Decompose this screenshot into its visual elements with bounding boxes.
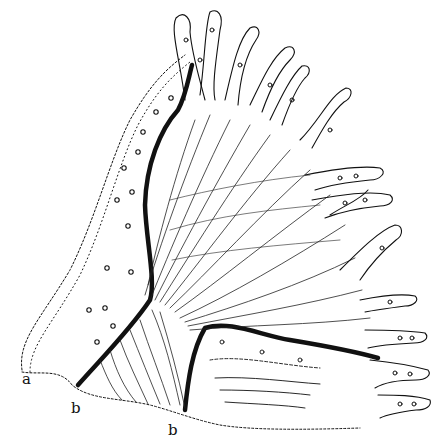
label-a: a bbox=[22, 372, 31, 387]
tissue-drawing bbox=[0, 0, 448, 447]
basement-membrane-left bbox=[78, 65, 192, 385]
outer-epithelium-outline bbox=[22, 55, 185, 370]
lower-tissue bbox=[210, 340, 320, 408]
illustration: a b b bbox=[0, 0, 448, 447]
label-b-center: b bbox=[168, 423, 178, 438]
basement-membrane-lower bbox=[185, 326, 378, 410]
villi bbox=[174, 11, 430, 418]
fiber-striations bbox=[100, 115, 370, 408]
label-b-left: b bbox=[71, 401, 81, 416]
